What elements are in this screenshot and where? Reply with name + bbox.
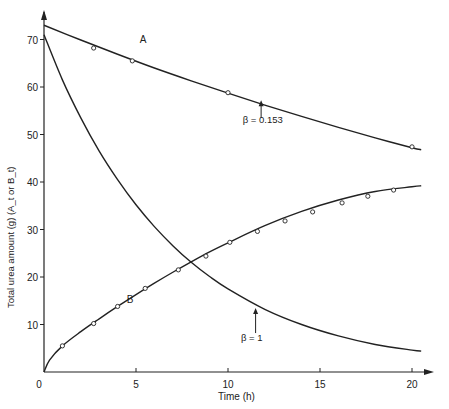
data-point-marker [283, 219, 287, 223]
series-line-0 [44, 25, 421, 149]
data-point-marker [204, 254, 208, 258]
axes: 1020304050607005101520 [27, 10, 434, 390]
x-axis-label: Time (h) [218, 391, 255, 402]
x-tick-label: 10 [222, 379, 234, 390]
data-point-marker [226, 91, 230, 95]
data-point-marker [366, 194, 370, 198]
x-axis-arrow-icon [424, 369, 434, 375]
beta-label-1: β = 1 [241, 332, 263, 343]
urea-chart: 1020304050607005101520 ABβ = 0.153β = 1 … [0, 0, 449, 409]
data-point-marker [60, 344, 64, 348]
annotations: ABβ = 0.153β = 1 [127, 34, 283, 343]
y-tick-label: 70 [27, 35, 39, 46]
series-label-b: B [127, 294, 134, 305]
y-tick-label: 30 [27, 225, 39, 236]
data-point-marker [176, 268, 180, 272]
markers [60, 46, 414, 348]
data-point-marker [116, 304, 120, 308]
curves [44, 25, 421, 372]
data-point-marker [410, 145, 414, 149]
y-tick-label: 60 [27, 82, 39, 93]
series-line-2 [44, 186, 421, 372]
y-tick-label: 40 [27, 177, 39, 188]
data-point-marker [92, 46, 96, 50]
y-axis-arrow-icon [41, 10, 47, 20]
y-tick-label: 50 [27, 130, 39, 141]
arrow-up-icon [253, 308, 258, 314]
data-point-marker [340, 201, 344, 205]
x-tick-label: 5 [133, 379, 139, 390]
data-point-marker [130, 59, 134, 63]
beta-label-0: β = 0.153 [243, 114, 283, 125]
data-point-marker [92, 321, 96, 325]
data-point-marker [392, 188, 396, 192]
y-tick-label: 20 [27, 272, 39, 283]
data-point-marker [255, 229, 259, 233]
data-point-marker [143, 286, 147, 290]
y-tick-label: 10 [27, 320, 39, 331]
x-tick-label: 0 [36, 379, 42, 390]
series-label-a: A [140, 34, 147, 45]
data-point-marker [311, 210, 315, 214]
y-axis-label: Total urea amount (g) (A_t or B_t) [5, 166, 16, 308]
data-point-marker [228, 240, 232, 244]
x-tick-label: 20 [406, 379, 418, 390]
x-tick-label: 15 [314, 379, 326, 390]
